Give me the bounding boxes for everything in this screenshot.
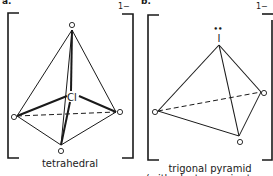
central-atom-i: I (218, 33, 221, 44)
tetrahedron-edges (17, 30, 116, 145)
right-bracket-a (122, 14, 133, 158)
left-bracket-b (148, 15, 159, 160)
charge-label-b: 1− (256, 2, 268, 11)
geometry-label-tetrahedral: tetrahedral (42, 158, 98, 169)
part-label-a: a. (2, 0, 12, 6)
pyramid-edges (158, 45, 261, 136)
central-atom-cl: Cl (67, 92, 77, 103)
lone-pair: •• (214, 25, 223, 33)
oxygen-atom-right (117, 109, 122, 114)
panel-tetrahedral: a. 1− Cl tetrahedral (2, 0, 133, 169)
oxygen-atom-left (11, 114, 16, 119)
part-label-b: b. (141, 0, 151, 6)
geometry-sublabel: (with electron pair at apex) (146, 173, 273, 176)
oxygen-atom-bottom-b (237, 139, 242, 144)
charge-label-a: 1− (118, 2, 130, 11)
oxygen-atom-left-b (152, 109, 157, 114)
oxygen-atom-top (69, 22, 74, 27)
molecular-geometry-figure: a. 1− Cl tetrahedral b. 1− (0, 0, 273, 176)
left-bracket-a (8, 13, 19, 158)
panel-trigonal-pyramid: b. 1− •• I trigonal pyramid (with electr… (141, 0, 273, 176)
oxygen-atom-right-b (261, 90, 266, 95)
oxygen-atom-bottom (58, 148, 63, 153)
